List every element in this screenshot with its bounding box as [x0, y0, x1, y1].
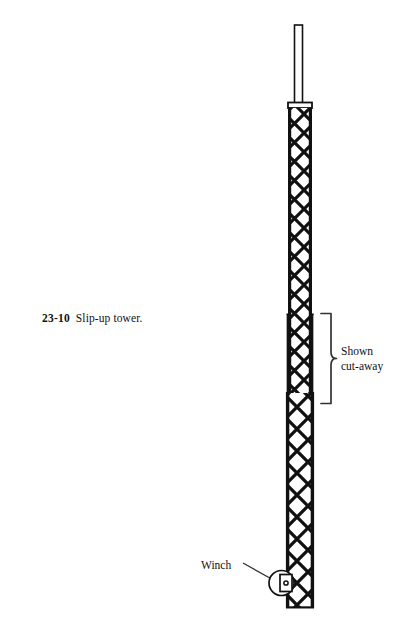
figure-number: 23-10	[42, 312, 70, 324]
cutaway-label-line1: Shown	[341, 344, 383, 359]
winch-drum-icon	[269, 571, 294, 596]
lattice-tower-upper-icon	[288, 103, 312, 404]
cutaway-label: Shown cut-away	[341, 344, 383, 374]
figure-caption: 23-10Slip-up tower.	[42, 311, 142, 325]
figure-slip-up-tower: 23-10Slip-up tower. Shown cut-away Winch	[0, 0, 416, 631]
cutaway-label-line2: cut-away	[341, 359, 383, 374]
curly-brace-icon	[321, 314, 337, 404]
antenna-mast-icon	[295, 25, 303, 107]
winch-label: Winch	[201, 558, 231, 572]
figure-caption-text: Slip-up tower.	[76, 312, 143, 324]
